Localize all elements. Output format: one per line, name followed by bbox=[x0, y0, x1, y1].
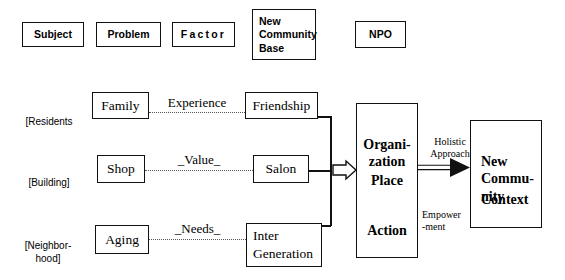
arrow-label-empowerment: Empower -ment bbox=[422, 196, 476, 234]
organization-box: Organi- zation Place Action bbox=[356, 103, 418, 258]
merge-line-vertical-spine bbox=[330, 116, 332, 226]
header-box-new-community-base: New Community Base bbox=[252, 9, 316, 60]
header-label-factor: Factor bbox=[181, 28, 226, 40]
row-factor-salon: Salon bbox=[253, 155, 309, 183]
solid-arrowhead-icon bbox=[450, 158, 470, 177]
row-factor-inter-generation: Inter Generation bbox=[246, 223, 322, 267]
row-relation-needs: _Needs_ bbox=[149, 221, 246, 237]
diagram-canvas: Subject Problem Factor New Community Bas… bbox=[0, 0, 565, 280]
header-box-problem: Problem bbox=[96, 22, 161, 47]
header-label-npo: NPO bbox=[369, 28, 392, 40]
merge-line-row2-horizontal bbox=[309, 170, 331, 172]
row-label-building: [Building] bbox=[12, 163, 86, 189]
row-subject-family: Family bbox=[92, 92, 149, 119]
header-label-new-community-base: New Community Base bbox=[259, 15, 317, 55]
row-relation-experience: Experience bbox=[149, 95, 245, 111]
row-label-neighborhood: [Neighbor- hood] bbox=[8, 226, 88, 265]
row-connector-1 bbox=[149, 112, 245, 113]
row-connector-2 bbox=[145, 170, 253, 171]
row-factor-friendship: Friendship bbox=[245, 92, 318, 119]
header-box-npo: NPO bbox=[355, 21, 406, 48]
header-box-subject: Subject bbox=[22, 22, 84, 47]
organization-item-action: Action bbox=[357, 223, 417, 239]
organization-item-organization: Organi- zation bbox=[357, 118, 417, 171]
row-connector-3 bbox=[149, 239, 246, 240]
row-label-residents: [Residents bbox=[12, 102, 86, 128]
result-line-context: Context bbox=[481, 191, 528, 209]
arrow-label-holistic-approach: Holistic Approach bbox=[424, 123, 476, 161]
row-subject-shop: Shop bbox=[97, 155, 145, 183]
new-community-context-box: New Commu- nity Context bbox=[470, 120, 542, 228]
organization-item-place: Place bbox=[357, 173, 417, 189]
row-relation-value: _Value_ bbox=[145, 152, 253, 168]
hollow-arrow-icon bbox=[333, 161, 356, 179]
header-box-factor: Factor bbox=[172, 22, 235, 47]
row-subject-aging: Aging bbox=[95, 225, 149, 254]
header-label-problem: Problem bbox=[107, 28, 149, 40]
header-label-subject: Subject bbox=[34, 28, 72, 40]
